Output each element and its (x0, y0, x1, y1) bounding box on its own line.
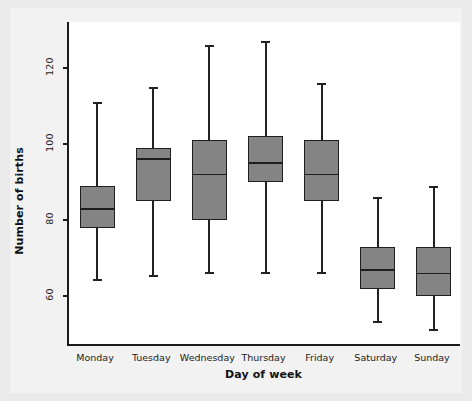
median-line (304, 174, 339, 176)
box-iqr (192, 140, 227, 220)
median-line (360, 269, 395, 271)
whisker-lower (377, 289, 379, 323)
box-plot-friday (304, 22, 339, 344)
chart-screenshot: Number of births 6080100120 MondayTuesda… (0, 0, 472, 401)
whisker-lower (152, 201, 154, 277)
whisker-cap-lower (373, 321, 382, 323)
plot-inner (69, 22, 460, 344)
box-plot-wednesday (192, 22, 227, 344)
whisker-cap-upper (317, 83, 326, 85)
y-axis-tick-mark (63, 143, 68, 145)
whisker-upper (433, 186, 435, 247)
whisker-lower (208, 220, 210, 273)
x-axis-tick-label: Sunday (404, 352, 460, 363)
y-axis-tick-mark (63, 67, 68, 69)
y-axis-tick-label: 80 (44, 207, 55, 231)
box-iqr (360, 247, 395, 289)
x-axis-title: Day of week (67, 368, 460, 381)
whisker-cap-lower (149, 275, 158, 277)
whisker-cap-lower (261, 272, 270, 274)
x-axis-tick-label: Monday (67, 352, 123, 363)
y-axis-tick-mark (63, 219, 68, 221)
box-iqr (304, 140, 339, 201)
median-line (248, 162, 283, 164)
x-axis-tick-label: Wednesday (179, 352, 235, 363)
box-plot-thursday (248, 22, 283, 344)
box-plot-saturday (360, 22, 395, 344)
box-iqr (80, 186, 115, 228)
whisker-lower (321, 201, 323, 273)
y-axis-tick-label: 120 (44, 54, 55, 78)
y-axis-tick-label: 100 (44, 130, 55, 154)
x-axis-tick-label: Thursday (235, 352, 291, 363)
y-axis-title: Number of births (13, 147, 26, 255)
whisker-cap-upper (429, 186, 438, 188)
y-axis-tick-label: 60 (44, 283, 55, 307)
chart-area: Number of births 6080100120 MondayTuesda… (10, 8, 462, 393)
box-plot-monday (80, 22, 115, 344)
whisker-cap-lower (93, 279, 102, 281)
whisker-cap-lower (205, 272, 214, 274)
whisker-upper (265, 41, 267, 136)
x-axis-tick-label: Saturday (348, 352, 404, 363)
whisker-cap-upper (261, 41, 270, 43)
box-iqr (136, 148, 171, 201)
plot-frame (67, 22, 460, 346)
box-iqr (248, 136, 283, 182)
whisker-upper (377, 197, 379, 247)
whisker-cap-upper (205, 45, 214, 47)
whisker-upper (321, 83, 323, 140)
whisker-cap-upper (373, 197, 382, 199)
whisker-cap-lower (317, 272, 326, 274)
whisker-upper (96, 102, 98, 186)
median-line (80, 208, 115, 210)
whisker-lower (265, 182, 267, 273)
box-plot-tuesday (136, 22, 171, 344)
whisker-lower (96, 228, 98, 281)
box-iqr (416, 247, 451, 297)
median-line (192, 174, 227, 176)
y-axis-tick-mark (63, 295, 68, 297)
whisker-cap-lower (429, 329, 438, 331)
x-axis-tick-label: Tuesday (123, 352, 179, 363)
box-plot-sunday (416, 22, 451, 344)
whisker-cap-upper (149, 87, 158, 89)
whisker-upper (208, 45, 210, 140)
x-axis-tick-label: Friday (292, 352, 348, 363)
median-line (136, 158, 171, 160)
median-line (416, 273, 451, 275)
whisker-upper (152, 87, 154, 148)
whisker-lower (433, 296, 435, 330)
whisker-cap-upper (93, 102, 102, 104)
